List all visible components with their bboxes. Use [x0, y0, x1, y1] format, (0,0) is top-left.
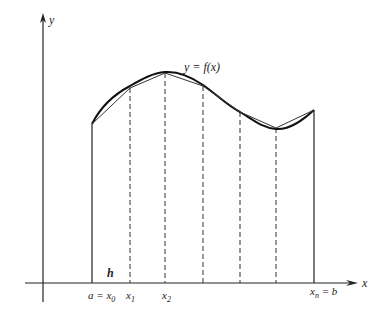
trapezoid-rule-figure: y x y = f(x) h a = x0 x1 x2 xn = b — [0, 0, 388, 313]
x0-label: a = x0 — [88, 289, 115, 304]
x1-label: x1 — [125, 289, 135, 304]
x-axis-label: x — [361, 276, 368, 290]
interior-ordinates — [130, 73, 276, 283]
curve-label: y = f(x) — [183, 60, 220, 74]
xn-label: xn = b — [309, 285, 338, 300]
step-size-label: h — [107, 266, 114, 280]
x2-label: x2 — [161, 289, 171, 304]
y-axis-label: y — [48, 13, 55, 27]
